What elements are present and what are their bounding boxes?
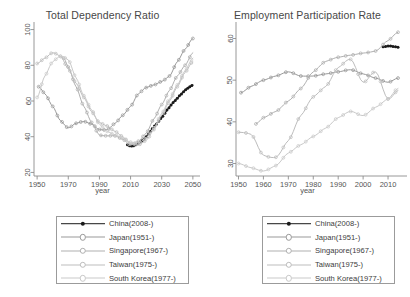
- legend-item-singapore[interactable]: Singapore(1967-): [57, 244, 188, 258]
- legend-key-icon: [61, 273, 105, 283]
- legend-label: Taiwan(1975-): [311, 260, 363, 269]
- legend-label: Taiwan(1975-): [105, 260, 157, 269]
- plot-area-right: 304050601950196019701980199020002010: [205, 0, 410, 205]
- legend-item-singapore[interactable]: Singapore(1967-): [263, 244, 394, 258]
- legend-right: China(2008-)Japan(1951-)Singapore(1967-)…: [262, 216, 395, 284]
- series-korea: [237, 89, 398, 173]
- legend-item-japan[interactable]: Japan(1951-): [57, 231, 188, 245]
- legend-key-icon: [61, 219, 105, 229]
- legend-label: Japan(1951-): [105, 233, 154, 242]
- legend-key-icon: [267, 232, 311, 242]
- y-tick-label: 50: [226, 76, 235, 84]
- legend-key-icon: [61, 232, 105, 242]
- y-tick-label: 20: [24, 168, 33, 176]
- figure-two-panel-chart: Total Dependency Ratio 20406080100195019…: [0, 0, 410, 297]
- y-tick-label: 100: [24, 23, 33, 36]
- y-tick-label: 40: [226, 118, 235, 126]
- legend-key-icon: [267, 219, 311, 229]
- legend-item-taiwan[interactable]: Taiwan(1975-): [57, 258, 188, 272]
- x-axis-label-left: year: [0, 186, 205, 195]
- plot-area-left: 20406080100195019701990201020302050: [0, 0, 205, 205]
- legend-item-china[interactable]: China(2008-): [263, 217, 394, 231]
- legend-key-icon: [267, 273, 311, 283]
- legend-label: Japan(1951-): [311, 233, 360, 242]
- legend-item-china[interactable]: China(2008-): [57, 217, 188, 231]
- x-axis-label-right: year: [205, 186, 410, 195]
- legend-item-taiwan[interactable]: Taiwan(1975-): [263, 258, 394, 272]
- series-singapore: [62, 53, 193, 146]
- legend-item-japan[interactable]: Japan(1951-): [263, 231, 394, 245]
- legend-item-korea[interactable]: South Korea(1977-): [263, 271, 394, 285]
- legend-label: South Korea(1977-): [311, 274, 382, 283]
- series-japan: [37, 37, 194, 131]
- legend-label: China(2008-): [105, 219, 153, 228]
- legend-key-icon: [61, 246, 105, 256]
- y-tick-label: 80: [24, 61, 33, 69]
- legend-key-icon: [267, 260, 311, 270]
- legend-key-icon: [267, 246, 311, 256]
- legend-key-icon: [61, 260, 105, 270]
- y-tick-label: 60: [24, 97, 33, 105]
- legend-item-korea[interactable]: South Korea(1977-): [57, 271, 188, 285]
- legend-label: China(2008-): [311, 219, 359, 228]
- y-tick-label: 40: [24, 133, 33, 141]
- legend-label: Singapore(1967-): [105, 246, 168, 255]
- legend-label: South Korea(1977-): [105, 274, 176, 283]
- panel-employment-participation-rate: Employment Participation Rate 3040506019…: [205, 0, 410, 205]
- y-tick-label: 60: [226, 34, 235, 42]
- y-tick-label: 30: [226, 159, 235, 167]
- panel-total-dependency-ratio: Total Dependency Ratio 20406080100195019…: [0, 0, 205, 205]
- legend-left: China(2008-)Japan(1951-)Singapore(1967-)…: [56, 216, 189, 284]
- legend-label: Singapore(1967-): [311, 246, 374, 255]
- series-singapore: [254, 31, 399, 126]
